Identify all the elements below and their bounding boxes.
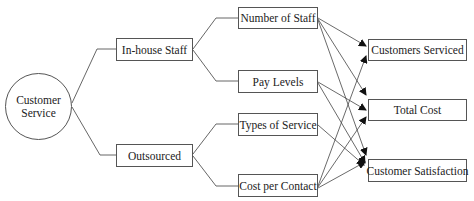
option-node-outsourced: Outsourced — [116, 144, 193, 167]
arrow-numstaff-totalcost — [318, 19, 366, 95]
factor-node-types-of-service: Types of Service — [238, 113, 318, 136]
arrow-costcontact-serviced — [318, 56, 366, 186]
outcome-node-total-cost: Total Cost — [368, 99, 467, 121]
branch-outsourced-costcontact — [193, 156, 238, 186]
root-node-customer-service: Customer Service — [5, 73, 72, 140]
branch-inhouse-numstaff — [193, 18, 238, 49]
factor-node-cost-per-contact: Cost per Contact — [238, 174, 318, 197]
branch-outsourced-types — [193, 124, 238, 154]
branch-root-inhouse — [72, 49, 116, 103]
outcome-node-customer-satisfaction: Customer Satisfaction — [368, 159, 467, 182]
arrow-numstaff-satisfaction — [318, 20, 366, 155]
arrow-numstaff-serviced — [318, 18, 366, 46]
root-label-line1: Customer — [16, 94, 61, 107]
branch-root-outsourced — [72, 107, 116, 155]
option-node-inhouse-staff: In-house Staff — [116, 38, 193, 61]
root-label-line2: Service — [21, 107, 55, 120]
outcome-node-customers-serviced: Customers Serviced — [368, 39, 467, 61]
branch-inhouse-pay — [193, 50, 238, 81]
factor-node-number-of-staff: Number of Staff — [238, 7, 318, 29]
factor-node-pay-levels: Pay Levels — [238, 70, 318, 93]
